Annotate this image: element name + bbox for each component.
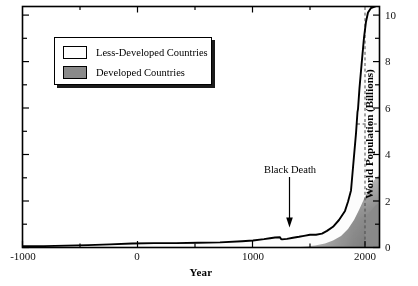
population-growth-chart: -1000 0 1000 2000 0 2 4 6 8 10 Year Worl… bbox=[0, 0, 418, 286]
legend-swatch-less-developed bbox=[63, 46, 87, 59]
x-tick-label-3: 2000 bbox=[354, 250, 376, 262]
legend-label-less-developed: Less-Developed Countries bbox=[96, 46, 208, 59]
x-tick-label-1: 0 bbox=[134, 250, 140, 262]
legend-label-developed: Developed Countries bbox=[96, 66, 185, 79]
x-axis-title: Year bbox=[0, 266, 402, 278]
y-tick-label-8: 8 bbox=[385, 55, 391, 67]
legend-swatch-developed bbox=[63, 66, 87, 79]
legend-item-less-developed: Less-Developed Countries bbox=[61, 43, 205, 61]
y-tick-label-2: 2 bbox=[385, 195, 391, 207]
legend-item-developed: Developed Countries bbox=[61, 63, 205, 81]
y-tick-label-6: 6 bbox=[385, 102, 391, 114]
chart-legend: Less-Developed Countries Developed Count… bbox=[54, 37, 212, 85]
y-axis-title: World Population (Billions) bbox=[363, 39, 375, 229]
x-tick-label-0: -1000 bbox=[10, 250, 36, 262]
annotation-black-death: Black Death bbox=[252, 164, 328, 175]
y-tick-label-0: 0 bbox=[385, 241, 391, 253]
x-tick-label-2: 1000 bbox=[242, 250, 264, 262]
y-tick-label-10: 10 bbox=[385, 9, 396, 21]
y-tick-label-4: 4 bbox=[385, 148, 391, 160]
